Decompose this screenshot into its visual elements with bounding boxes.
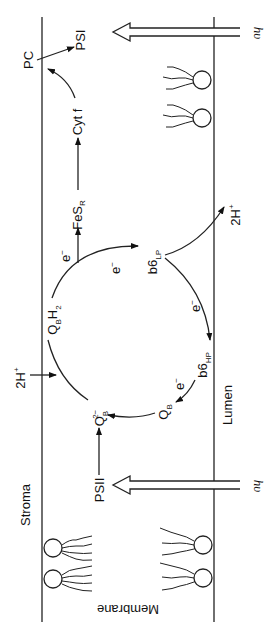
label-membrane: Membrane: [97, 602, 159, 617]
light-arrow-psii: [113, 476, 240, 494]
label-cytf: Cyt f: [70, 108, 85, 135]
arrow-b6lp-to-b6hp: [165, 258, 210, 340]
electron-label-2: e−: [108, 262, 123, 274]
light-label-bottom: hυ: [251, 480, 266, 493]
electron-label-3: e−: [188, 300, 203, 312]
q-cycle-diagram: hυ hυ PC PSI: [0, 0, 266, 638]
arrow-qb2-to-qbh2: [48, 340, 88, 400]
lipid-group-bottom-lumen: [160, 528, 212, 590]
arrow-qb-to-qb2: [108, 413, 155, 417]
label-psi: PSI: [73, 30, 88, 51]
label-lumen: Lumen: [220, 385, 235, 425]
label-proton-lumen: 2H+: [227, 204, 243, 226]
light-arrow-psi: [113, 23, 240, 41]
label-qb2minus: QB2−: [91, 409, 110, 426]
light-label-top: hυ: [251, 27, 266, 40]
lipid-group-top: [163, 67, 211, 128]
label-qbh2: QBH2: [45, 305, 63, 335]
label-stroma: Stroma: [18, 483, 33, 526]
label-psii: PSII: [92, 478, 107, 503]
label-qb: QB: [156, 404, 174, 419]
label-b6lp: b6LP: [145, 250, 163, 274]
electron-label-1: e−: [58, 250, 73, 262]
label-fes: FeSR: [70, 200, 87, 230]
lipid-group-bottom-stroma: [44, 536, 92, 591]
electron-label-4: e−: [172, 378, 187, 390]
label-b6hp: b6HP: [195, 352, 213, 378]
arrow-cytf-to-pc: [48, 69, 75, 98]
label-proton-stroma: 2H+: [12, 367, 28, 389]
label-pc: PC: [21, 51, 36, 69]
arrow-proton-release-lumen: [165, 207, 224, 255]
